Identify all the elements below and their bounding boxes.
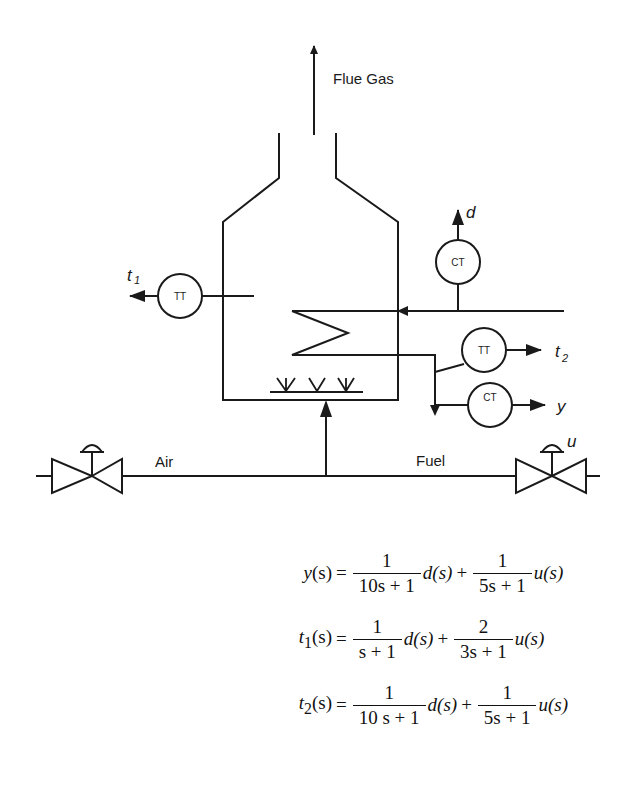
lhs-arg: (s) (312, 626, 332, 647)
burner-icons (277, 378, 354, 391)
lhs-arg: (s) (312, 562, 332, 583)
tt2-tag: TT (478, 345, 490, 356)
outlet-arrow-head (430, 405, 440, 416)
term-var: d(s) (428, 694, 458, 716)
denominator: 3s + 1 (454, 639, 513, 663)
equals-sign: = (332, 562, 351, 584)
fraction: 1s + 1 (353, 616, 402, 663)
numerator: 1 (367, 616, 389, 639)
numerator: 1 (378, 682, 400, 705)
term-var: u(s) (534, 562, 564, 584)
equals-sign: = (332, 694, 351, 716)
tt2-branch-line (435, 364, 464, 372)
equation-t1: t1(s) = 1s + 1 d(s) + 23s + 1 u(s) (250, 606, 610, 672)
fuel-label: Fuel (416, 452, 445, 469)
heating-coil (292, 311, 435, 412)
plus-sign: + (457, 694, 476, 716)
t2-label: t (555, 342, 561, 361)
transfer-function-equations: y(s) = 110s + 1 d(s) + 15s + 1 u(s) t1(s… (250, 540, 610, 738)
y-label: y (556, 397, 567, 416)
fraction: 110s + 1 (353, 550, 421, 597)
denominator: 10s + 1 (353, 573, 421, 597)
ct-d-tag: CT (451, 257, 464, 268)
denominator: 5s + 1 (478, 705, 537, 729)
denominator: 5s + 1 (473, 573, 532, 597)
fraction: 23s + 1 (454, 616, 513, 663)
fraction: 15s + 1 (473, 550, 532, 597)
ct-y-instrument (468, 383, 512, 427)
equation-t2: t2(s) = 110 s + 1 d(s) + 15s + 1 u(s) (250, 672, 610, 738)
tt1-tag: TT (174, 291, 186, 302)
d-label: d (466, 203, 476, 222)
supply-arrow-head (320, 400, 332, 417)
fuel-valve[interactable] (516, 445, 586, 493)
lhs-subscript: 2 (304, 700, 312, 717)
t1-label: t (127, 266, 133, 285)
u-label: u (567, 432, 577, 451)
numerator: 1 (376, 550, 398, 573)
fraction: 15s + 1 (478, 682, 537, 729)
numerator: 1 (492, 550, 514, 573)
furnace-body (223, 133, 398, 400)
plus-sign: + (452, 562, 471, 584)
numerator: 2 (473, 616, 495, 639)
term-var: d(s) (404, 628, 434, 650)
lhs-subscript: 1 (304, 634, 312, 651)
denominator: 10 s + 1 (353, 705, 426, 729)
term-var: u(s) (538, 694, 568, 716)
fraction: 110 s + 1 (353, 682, 426, 729)
t2-subscript: 2 (561, 352, 568, 364)
air-label: Air (155, 453, 173, 470)
flue-gas-label: Flue Gas (333, 70, 394, 87)
numerator: 1 (496, 682, 518, 705)
lhs-arg: (s) (312, 692, 332, 713)
lhs-var: y (304, 562, 312, 583)
plus-sign: + (433, 628, 452, 650)
t1-subscript: 1 (134, 274, 140, 286)
ct-y-tag: CT (483, 392, 496, 403)
equation-y: y(s) = 110s + 1 d(s) + 15s + 1 u(s) (250, 540, 610, 606)
term-var: d(s) (423, 562, 453, 584)
air-valve[interactable] (52, 445, 122, 493)
equals-sign: = (332, 628, 351, 650)
term-var: u(s) (515, 628, 545, 650)
denominator: s + 1 (353, 639, 402, 663)
